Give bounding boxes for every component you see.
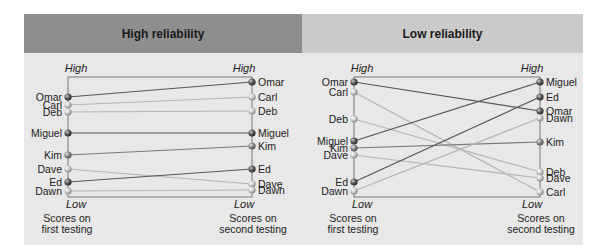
label-second-dawn: Dawn bbox=[546, 112, 573, 124]
dot-first-deb bbox=[64, 108, 71, 115]
right-axis-low-label: Low bbox=[234, 198, 255, 210]
dot-second-dave bbox=[536, 174, 543, 181]
label-second-kim: Kim bbox=[546, 136, 564, 148]
dot-second-omar bbox=[248, 78, 255, 85]
right-axis-low-label: Low bbox=[522, 198, 543, 210]
label-second-miguel: Miguel bbox=[258, 127, 289, 139]
slope-line-kim bbox=[68, 146, 252, 155]
label-second-kim: Kim bbox=[258, 140, 276, 152]
dot-first-omar bbox=[64, 93, 71, 100]
label-first-miguel: Miguel bbox=[31, 127, 62, 139]
left-axis-caption: first testing bbox=[42, 223, 93, 235]
label-second-carl: Carl bbox=[258, 91, 277, 103]
dot-first-kim bbox=[64, 151, 71, 158]
dot-first-miguel bbox=[64, 129, 71, 136]
dot-first-dawn bbox=[64, 187, 71, 194]
label-second-ed: Ed bbox=[546, 91, 559, 103]
dot-first-dave bbox=[64, 165, 71, 172]
dot-first-ed bbox=[64, 178, 71, 185]
label-first-dawn: Dawn bbox=[35, 185, 62, 197]
dot-second-ed bbox=[248, 165, 255, 172]
slope-line-carl bbox=[68, 97, 252, 105]
label-first-kim: Kim bbox=[44, 149, 62, 161]
label-second-dave: Dave bbox=[546, 172, 571, 184]
dot-second-dawn bbox=[536, 114, 543, 121]
slope-charts: HighHighLowLowScores onfirst testingScor… bbox=[0, 0, 608, 249]
dot-second-omar bbox=[536, 107, 543, 114]
dot-first-kim bbox=[350, 144, 357, 151]
dot-first-dawn bbox=[350, 187, 357, 194]
dot-first-deb bbox=[350, 115, 357, 122]
low-reliability-chart: HighHighLowLowScores onfirst testingScor… bbox=[317, 62, 577, 235]
right-axis-caption: second testing bbox=[507, 223, 575, 235]
dot-second-carl bbox=[248, 93, 255, 100]
dot-first-dave bbox=[350, 151, 357, 158]
dot-second-kim bbox=[536, 138, 543, 145]
high-reliability-chart: HighHighLowLowScores onfirst testingScor… bbox=[31, 62, 289, 235]
label-first-carl: Carl bbox=[329, 86, 348, 98]
dot-second-carl bbox=[536, 188, 543, 195]
label-second-ed: Ed bbox=[258, 163, 271, 175]
dot-first-carl bbox=[64, 101, 71, 108]
right-axis-caption: second testing bbox=[219, 223, 287, 235]
dot-second-miguel bbox=[248, 129, 255, 136]
right-axis-high-label: High bbox=[521, 62, 544, 74]
left-axis-caption: first testing bbox=[328, 223, 379, 235]
dot-first-miguel bbox=[350, 137, 357, 144]
dot-second-deb bbox=[248, 107, 255, 114]
label-second-miguel: Miguel bbox=[546, 76, 577, 88]
dot-first-omar bbox=[350, 78, 357, 85]
left-axis-low-label: Low bbox=[66, 198, 87, 210]
label-first-deb: Deb bbox=[43, 106, 62, 118]
slope-line-miguel bbox=[354, 82, 540, 141]
label-second-dawn: Dawn bbox=[258, 184, 285, 196]
dot-first-carl bbox=[350, 88, 357, 95]
dot-first-ed bbox=[350, 178, 357, 185]
label-first-deb: Deb bbox=[329, 113, 348, 125]
slope-line-ed bbox=[354, 97, 540, 182]
slope-line-dawn bbox=[354, 118, 540, 191]
label-first-dave: Dave bbox=[37, 163, 62, 175]
slope-line-dawn bbox=[68, 190, 252, 191]
label-second-deb: Deb bbox=[258, 105, 277, 117]
dot-second-dawn bbox=[248, 186, 255, 193]
label-first-dave: Dave bbox=[323, 149, 348, 161]
dot-second-ed bbox=[536, 93, 543, 100]
slope-line-deb bbox=[68, 111, 252, 112]
slope-line-kim bbox=[354, 142, 540, 148]
right-axis-high-label: High bbox=[233, 62, 256, 74]
slope-line-omar bbox=[68, 82, 252, 97]
label-second-omar: Omar bbox=[258, 76, 285, 88]
dot-second-kim bbox=[248, 142, 255, 149]
axis-frame bbox=[354, 77, 540, 197]
slope-line-dave bbox=[354, 155, 540, 178]
label-second-carl: Carl bbox=[546, 186, 565, 198]
label-first-dawn: Dawn bbox=[321, 185, 348, 197]
dot-second-miguel bbox=[536, 78, 543, 85]
left-axis-high-label: High bbox=[351, 62, 374, 74]
left-axis-high-label: High bbox=[65, 62, 88, 74]
left-axis-low-label: Low bbox=[352, 198, 373, 210]
